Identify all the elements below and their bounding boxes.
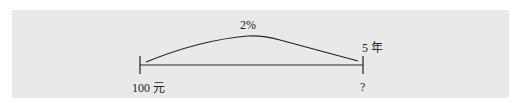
period-label: 5 年: [362, 38, 383, 56]
future-value-label: ?: [360, 80, 365, 95]
rate-label: 2%: [240, 18, 256, 33]
interest-arc: [146, 36, 358, 62]
timeline-diagram: [0, 0, 517, 103]
principal-label: 100 元: [132, 78, 165, 96]
